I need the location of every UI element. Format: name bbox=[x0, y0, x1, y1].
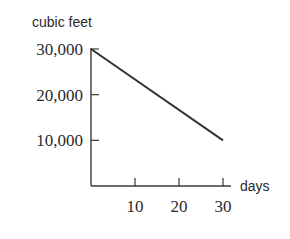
y-tick-label: 30,000 bbox=[36, 40, 83, 59]
x-tick-label: 30 bbox=[215, 197, 232, 216]
line-chart: cubic feet days 10,00020,00030,000 10203… bbox=[0, 0, 290, 239]
y-tick-label: 10,000 bbox=[36, 131, 83, 150]
y-tick-label: 20,000 bbox=[36, 86, 83, 105]
series-group bbox=[91, 49, 223, 140]
x-axis-label: days bbox=[240, 178, 270, 194]
x-tick-label: 20 bbox=[171, 197, 188, 216]
series-line-volume bbox=[91, 49, 223, 140]
x-ticks: 102030 bbox=[127, 178, 232, 216]
x-tick-label: 10 bbox=[127, 197, 144, 216]
y-ticks: 10,00020,00030,000 bbox=[36, 40, 99, 150]
y-axis-label: cubic feet bbox=[32, 14, 92, 30]
